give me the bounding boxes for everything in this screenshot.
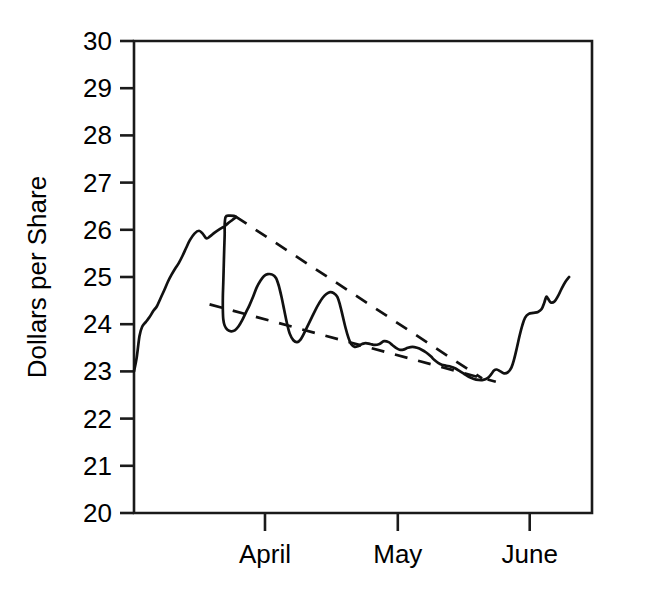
x-tick-label: April	[239, 539, 291, 569]
y-tick-label: 30	[83, 26, 112, 56]
x-axis-ticks	[265, 513, 530, 531]
y-axis-ticks	[120, 41, 134, 513]
y-tick-label: 23	[83, 356, 112, 386]
trendline-path	[210, 304, 496, 381]
y-axis-title: Dollars per Share	[22, 176, 52, 378]
price-line-path	[134, 216, 569, 380]
chart-canvas: 2021222324252627282930 AprilMayJune Doll…	[0, 0, 654, 603]
y-tick-label: 24	[83, 309, 112, 339]
data-series-group	[134, 216, 569, 382]
stock-price-chart: 2021222324252627282930 AprilMayJune Doll…	[0, 0, 654, 603]
y-tick-label: 26	[83, 215, 112, 245]
x-axis-tick-labels: AprilMayJune	[239, 539, 558, 569]
plot-border	[134, 41, 592, 513]
y-tick-label: 22	[83, 404, 112, 434]
x-tick-label: May	[373, 539, 422, 569]
y-tick-label: 29	[83, 73, 112, 103]
x-tick-label: June	[502, 539, 558, 569]
trendline-path	[236, 217, 482, 379]
y-tick-label: 20	[83, 498, 112, 528]
y-tick-label: 25	[83, 262, 112, 292]
y-axis-tick-labels: 2021222324252627282930	[83, 26, 112, 528]
y-tick-label: 21	[83, 451, 112, 481]
y-tick-label: 27	[83, 168, 112, 198]
plot-frame	[134, 41, 592, 513]
y-tick-label: 28	[83, 120, 112, 150]
